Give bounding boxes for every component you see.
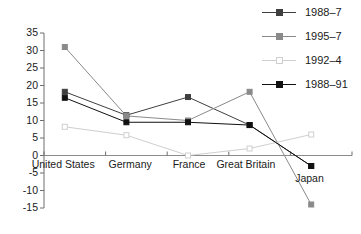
y-axis-label-2: 25 [6,61,38,73]
series-0-point-0 [62,89,67,94]
x-axis-label-0: United States [32,158,95,170]
legend-line-1 [262,36,296,37]
series-1-point-3 [247,89,252,94]
legend-line-3 [262,84,296,85]
series-2-point-0 [62,124,67,129]
series-3-point-2 [186,120,191,125]
series-2-point-3 [247,146,252,151]
legend-marker-3 [276,81,283,88]
series-1-point-4 [309,202,314,207]
x-axis-label-1: Germany [109,158,152,170]
x-axis-label-3: Great Britain [216,158,275,170]
y-axis-label-6: 5 [6,131,38,143]
legend-item-3[interactable]: 1988–91 [262,76,348,92]
series-2-point-1 [124,133,129,138]
series-3-point-4 [309,164,314,169]
legend-item-1[interactable]: 1995–7 [262,28,342,44]
legend-label-1: 1995–7 [305,30,342,42]
y-axis-label-10: -15 [6,201,38,213]
legend-line-0 [262,12,296,13]
legend-marker-2 [276,57,283,64]
series-1-point-1 [124,113,129,118]
y-axis-label-0: 35 [6,26,38,38]
series-3-point-1 [124,120,129,125]
y-axis-label-1: 30 [6,44,38,56]
legend-line-2 [262,60,296,61]
chart-legend: 1988–7 1995–7 1992–4 1988–91 [262,2,361,94]
y-axis-label-4: 15 [6,96,38,108]
legend-label-2: 1992–4 [305,54,342,66]
series-3-point-3 [247,123,252,128]
series-1-point-0 [62,45,67,50]
y-axis-label-5: 10 [6,114,38,126]
legend-marker-0 [276,9,283,16]
series-2-point-4 [309,132,314,137]
x-axis-label-4: Japan [295,172,324,184]
line-chart: 1988–7 1995–7 1992–4 1988–91 35302520151… [0,0,361,234]
legend-label-0: 1988–7 [305,6,342,18]
x-axis-label-2: France [173,158,206,170]
legend-item-0[interactable]: 1988–7 [262,4,342,20]
legend-marker-1 [276,33,283,40]
legend-label-3: 1988–91 [305,78,348,90]
y-axis-label-9: -10 [6,184,38,196]
y-axis-label-3: 20 [6,79,38,91]
series-0-point-2 [186,95,191,100]
legend-item-2[interactable]: 1992–4 [262,52,342,68]
series-3-point-0 [62,95,67,100]
